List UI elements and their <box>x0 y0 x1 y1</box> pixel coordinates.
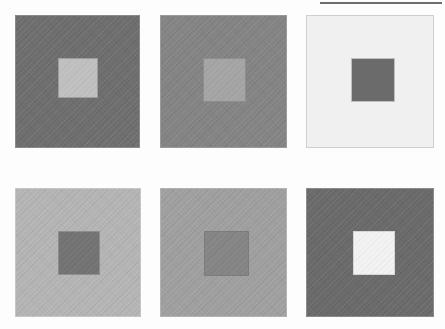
patch-texture-overlay <box>59 59 97 97</box>
horizontal-rule <box>320 2 442 4</box>
test-patch-bottom-middle <box>204 231 249 276</box>
stimulus-panel-bottom-middle <box>160 188 287 317</box>
patch-texture-overlay <box>354 232 394 274</box>
stimulus-panel-top-middle <box>160 15 287 148</box>
stimulus-panel-bottom-left <box>15 188 141 317</box>
test-patch-top-right <box>351 58 395 102</box>
test-patch-top-left <box>58 58 98 98</box>
test-patch-bottom-left <box>58 231 100 275</box>
patch-texture-overlay <box>59 232 99 274</box>
figure-canvas <box>0 0 445 329</box>
test-patch-bottom-right <box>353 231 395 275</box>
test-patch-top-middle <box>203 58 246 102</box>
patch-texture-overlay <box>204 59 245 101</box>
patch-texture-overlay <box>205 232 248 275</box>
stimulus-panel-top-left <box>15 15 140 148</box>
stimulus-panel-top-right <box>306 15 434 148</box>
stimulus-panel-bottom-right <box>306 188 434 317</box>
